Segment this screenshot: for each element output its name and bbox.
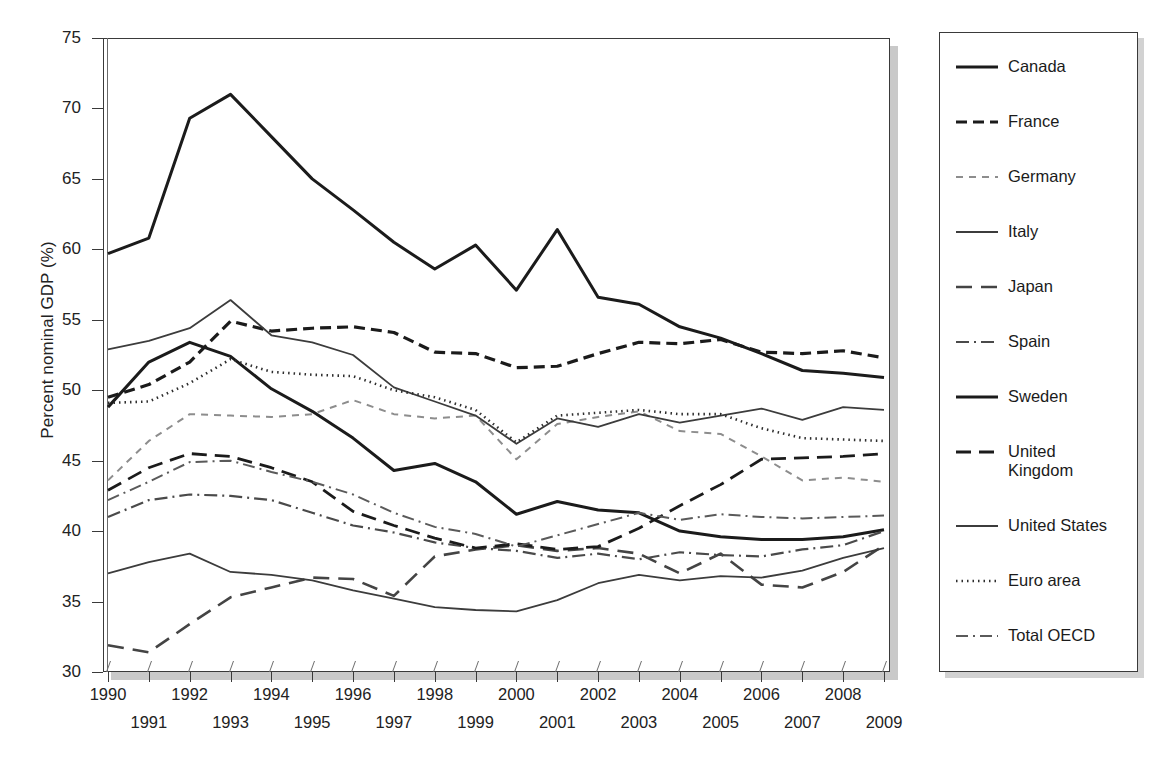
legend-item-label: Total OECD: [1000, 626, 1095, 645]
x-axis-tick-label: 1990: [78, 686, 138, 703]
x-axis-tick: [149, 672, 150, 682]
legend-line-swatch: [954, 60, 1000, 76]
legend-item-label: Japan: [1000, 277, 1053, 296]
x-axis-tick: [394, 672, 395, 682]
legend-line-swatch: [954, 280, 1000, 296]
x-axis-tick-label: 1991: [119, 714, 179, 731]
y-axis-tick: [92, 320, 103, 321]
legend-line-swatch: [954, 170, 1000, 186]
x-axis-tick: [476, 672, 477, 682]
x-axis-tick: [435, 672, 436, 682]
x-axis-tick: [271, 672, 272, 682]
y-axis-tick: [92, 390, 103, 391]
legend-line-swatch: [954, 629, 1000, 645]
y-axis-tick: [92, 531, 103, 532]
y-axis-tick-label: 65: [35, 170, 81, 187]
y-axis-tick: [92, 249, 103, 250]
legend-line-swatch: [954, 390, 1000, 406]
x-axis-tick-label: 1996: [323, 686, 383, 703]
x-axis-tick: [721, 672, 722, 682]
x-axis-tick: [761, 672, 762, 682]
legend-item-label: Sweden: [1000, 387, 1068, 406]
legend-line-swatch: [954, 574, 1000, 590]
y-axis-tick: [92, 38, 103, 39]
legend-item[interactable]: Germany: [954, 167, 1076, 186]
series-line-total-oecd: [108, 461, 884, 547]
x-axis-tick-label: 2009: [854, 714, 914, 731]
legend-item[interactable]: Italy: [954, 222, 1038, 241]
y-axis-tick-label: 30: [35, 663, 81, 680]
x-axis-tick: [190, 672, 191, 682]
y-axis-tick: [92, 461, 103, 462]
x-axis-tick-label: 2006: [731, 686, 791, 703]
legend-item-label: France: [1000, 112, 1059, 131]
legend-item[interactable]: Total OECD: [954, 626, 1095, 645]
x-axis-tick-label: 1995: [282, 714, 342, 731]
x-axis-tick: [312, 672, 313, 682]
series-line-united-kingdom: [108, 454, 884, 550]
x-axis-tick-label: 2001: [527, 714, 587, 731]
x-axis-tick-label: 2002: [568, 686, 628, 703]
y-axis-tick-label: 60: [35, 240, 81, 257]
series-line-sweden: [108, 94, 884, 377]
legend-item-label: Canada: [1000, 57, 1066, 76]
x-axis-tick-label: 2008: [813, 686, 873, 703]
legend-item[interactable]: France: [954, 112, 1059, 131]
legend-item[interactable]: Sweden: [954, 387, 1068, 406]
legend-item[interactable]: Euro area: [954, 571, 1080, 590]
x-axis-tick: [598, 672, 599, 682]
y-axis-tick-label: 40: [35, 522, 81, 539]
y-axis-tick-label: 45: [35, 452, 81, 469]
x-axis-tick: [108, 672, 109, 682]
series-line-spain: [108, 494, 884, 559]
y-axis-tick-label: 50: [35, 381, 81, 398]
y-axis-tick-label: 75: [35, 29, 81, 46]
legend-item[interactable]: United States: [954, 516, 1107, 535]
legend-item-label: Italy: [1000, 222, 1038, 241]
y-axis-tick-label: 35: [35, 593, 81, 610]
y-axis-tick: [92, 672, 103, 673]
legend-item[interactable]: United Kingdom: [954, 442, 1073, 480]
y-axis-tick: [92, 179, 103, 180]
x-axis-tick-label: 1998: [405, 686, 465, 703]
series-line-italy: [108, 300, 884, 444]
x-axis-tick: [680, 672, 681, 682]
series-line-france: [108, 321, 884, 397]
x-axis-tick: [884, 672, 885, 682]
x-axis-tick: [802, 672, 803, 682]
x-axis-tick: [516, 672, 517, 682]
y-axis-tick-label: 55: [35, 311, 81, 328]
plot-area: [103, 38, 890, 672]
series-lines: [103, 38, 890, 672]
legend-item-label: Germany: [1000, 167, 1076, 186]
x-axis-tick: [639, 672, 640, 682]
legend-item-label: Euro area: [1000, 571, 1080, 590]
x-axis-tick-label: 1992: [160, 686, 220, 703]
x-axis-tick-label: 2003: [609, 714, 669, 731]
x-axis-tick-label: 2000: [486, 686, 546, 703]
chart-figure: Percent nominal GDP (%) 3035404550556065…: [0, 0, 1163, 760]
legend-item[interactable]: Japan: [954, 277, 1053, 296]
legend-line-swatch: [954, 335, 1000, 351]
x-axis-tick-label: 1993: [201, 714, 261, 731]
series-line-canada: [108, 342, 884, 539]
y-axis-tick-label: 70: [35, 99, 81, 116]
x-axis-tick-label: 2005: [691, 714, 751, 731]
legend-item-label: United Kingdom: [1000, 442, 1073, 480]
legend-item-label: Spain: [1000, 332, 1050, 351]
y-axis-tick: [92, 602, 103, 603]
x-axis-tick-label: 2004: [650, 686, 710, 703]
legend-item[interactable]: Canada: [954, 57, 1066, 76]
series-line-japan: [108, 545, 884, 652]
legend-line-swatch: [954, 519, 1000, 535]
legend-line-swatch: [954, 225, 1000, 241]
x-axis-tick: [231, 672, 232, 682]
legend-line-swatch: [954, 445, 1000, 461]
legend-line-swatch: [954, 115, 1000, 131]
chart-legend: CanadaFranceGermanyItalyJapanSpainSweden…: [939, 32, 1138, 672]
legend-item[interactable]: Spain: [954, 332, 1050, 351]
x-axis-tick-label: 1997: [364, 714, 424, 731]
y-axis-tick: [92, 108, 103, 109]
legend-item-label: United States: [1000, 516, 1107, 535]
x-axis-tick-label: 1994: [241, 686, 301, 703]
